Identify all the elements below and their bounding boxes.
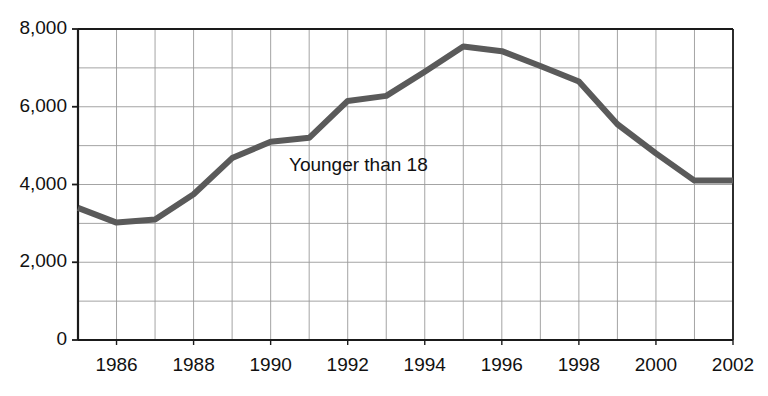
x-axis-tick-label: 1988 [164, 354, 224, 376]
x-axis-tick-label: 1994 [395, 354, 455, 376]
y-axis-tick-label: 0 [56, 328, 67, 350]
x-axis-tick-label: 1986 [87, 354, 147, 376]
x-axis-tick-label: 1992 [318, 354, 378, 376]
y-axis-tick-label: 8,000 [19, 17, 67, 39]
line-chart [0, 0, 768, 396]
x-axis-tick-label: 1996 [472, 354, 532, 376]
series-annotation-label: Younger than 18 [289, 154, 428, 176]
chart-container: 02,0004,0006,0008,0001986198819901992199… [0, 0, 768, 396]
y-axis-tick-label: 4,000 [19, 173, 67, 195]
x-axis-tick-label: 1998 [549, 354, 609, 376]
y-axis-tick-label: 2,000 [19, 250, 67, 272]
x-axis-tick-label: 1990 [241, 354, 301, 376]
y-axis-tick-label: 6,000 [19, 95, 67, 117]
x-axis-tick-label: 2000 [626, 354, 686, 376]
x-axis-tick-label: 2002 [703, 354, 763, 376]
